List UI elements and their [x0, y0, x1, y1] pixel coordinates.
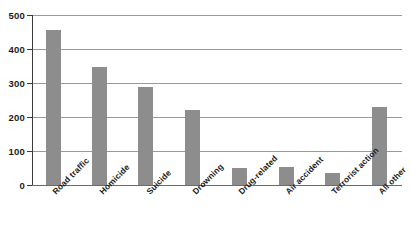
- y-tick-mark-100: [27, 151, 32, 152]
- gridline-300: [32, 83, 402, 84]
- bar-homicide: [92, 67, 107, 185]
- bar-road-traffic: [46, 30, 61, 185]
- y-tick-label-300: 300: [1, 79, 25, 89]
- y-tick-mark-400: [27, 49, 32, 50]
- y-tick-label-400: 400: [1, 45, 25, 55]
- y-tick-label-0: 0: [1, 181, 25, 191]
- bar-chart: 500 400 300 200 100 0 Road traffic Homic…: [0, 0, 411, 252]
- y-tick-mark-0: [27, 185, 32, 186]
- y-tick-mark-500: [27, 15, 32, 16]
- y-tick-label-500: 500: [1, 11, 25, 21]
- bar-drowning: [185, 110, 200, 185]
- gridline-500: [32, 15, 402, 16]
- gridline-200: [32, 117, 402, 118]
- y-tick-mark-300: [27, 83, 32, 84]
- y-tick-label-100: 100: [1, 147, 25, 157]
- y-axis-line: [32, 15, 33, 185]
- y-tick-label-200: 200: [1, 113, 25, 123]
- bar-suicide: [138, 87, 153, 185]
- gridline-400: [32, 49, 402, 50]
- y-tick-mark-200: [27, 117, 32, 118]
- gridline-100: [32, 151, 402, 152]
